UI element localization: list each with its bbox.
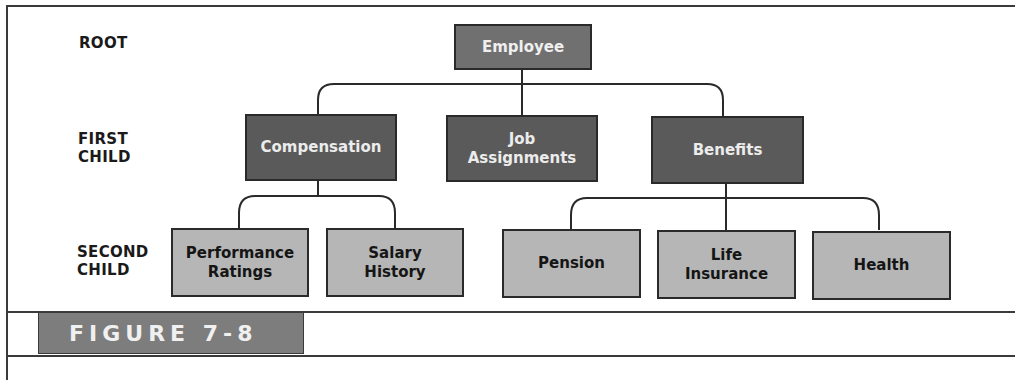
- node-salary-line2: History: [364, 263, 425, 282]
- node-job-assignments: Job Assignments: [446, 115, 598, 182]
- node-health: Health: [812, 231, 951, 300]
- node-performance-line1: Performance: [186, 244, 294, 263]
- connector-root-branch: [318, 84, 723, 116]
- node-employee: Employee: [454, 24, 592, 70]
- node-job-label-line1: Job: [509, 130, 536, 149]
- node-health-label: Health: [854, 256, 910, 275]
- node-pension-label: Pension: [538, 254, 605, 273]
- figure-label: FIGURE 7-8: [38, 312, 304, 354]
- node-salary-line1: Salary: [368, 244, 421, 263]
- node-salary-history: Salary History: [326, 228, 464, 297]
- node-pension: Pension: [502, 229, 641, 298]
- node-performance-line2: Ratings: [208, 263, 272, 282]
- node-life-line2: Insurance: [685, 265, 768, 284]
- node-life-insurance: Life Insurance: [657, 230, 796, 299]
- node-performance-ratings: Performance Ratings: [171, 228, 309, 297]
- node-compensation-label: Compensation: [261, 138, 382, 157]
- node-benefits-label: Benefits: [693, 141, 763, 160]
- connector-compensation-branch: [239, 196, 395, 228]
- node-employee-label: Employee: [482, 38, 564, 57]
- figure-label-text: FIGURE 7-8: [69, 321, 258, 346]
- node-job-label-line2: Assignments: [468, 149, 577, 168]
- node-compensation: Compensation: [245, 114, 397, 181]
- caption-bottom-rule: [6, 355, 1015, 357]
- node-benefits: Benefits: [651, 116, 804, 184]
- node-life-line1: Life: [711, 246, 742, 265]
